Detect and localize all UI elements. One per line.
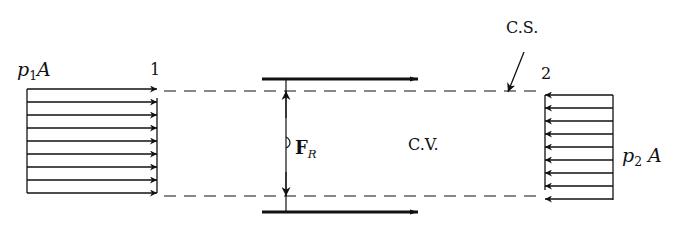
label-p2A: p2 A [622,146,662,168]
left-pressure-distribution [27,89,157,193]
p1A-sub: 1 [29,69,37,83]
label-resultant-force: FR [295,139,317,160]
right-pressure-distribution [545,95,613,200]
label-section-2: 2 [541,66,551,82]
label-section-1: 1 [150,62,160,78]
control-surface-boundary [164,91,542,196]
p2A-sub: 2 [634,155,642,169]
control-volume-diagram [0,0,681,239]
p2A-rest: A [648,144,662,166]
control-surface-pointer [508,52,524,92]
label-control-surface: C.S. [506,20,538,36]
p1A-var: p [17,58,29,80]
p1A-rest: A [37,58,51,80]
force-sub: R [308,147,317,161]
force-var: F [295,137,308,158]
label-control-volume: C.V. [408,137,439,153]
p2A-var: p [622,144,634,166]
resultant-force-indicator [286,79,290,212]
label-p1A: p1A [17,60,51,82]
